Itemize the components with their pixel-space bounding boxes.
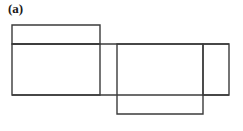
center-rectangle (117, 44, 203, 114)
right-rectangle (203, 44, 229, 95)
top-left-rectangle (12, 25, 100, 44)
large-left-rectangle (12, 44, 100, 95)
figure-panel: (a) (0, 0, 243, 131)
rectangle-arrangement-diagram (0, 0, 243, 131)
